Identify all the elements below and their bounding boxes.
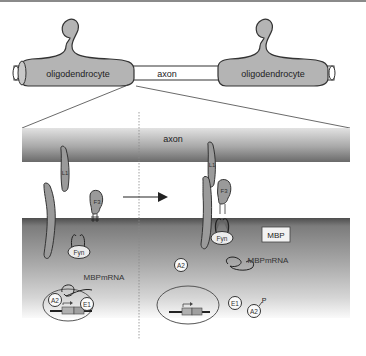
right-mbp-mrna-label: MBPmRNA: [248, 256, 290, 265]
svg-text:MBP: MBP: [267, 231, 284, 240]
zoom-line-left: [22, 85, 128, 128]
mbp-protein-box: MBP: [262, 227, 290, 242]
diagram-canvas: axon oligodendrocyte oligodendrocyte axo…: [0, 0, 366, 356]
right-free-e1: E1: [229, 297, 242, 310]
right-oligodendrocyte-label: oligodendrocyte: [241, 69, 305, 79]
left-mbp-mrna-label: MBPmRNA: [84, 273, 126, 282]
svg-text:E1: E1: [231, 300, 239, 307]
right-free-a2: A2: [175, 259, 188, 272]
overview-schematic: axon oligodendrocyte oligodendrocyte: [13, 19, 350, 128]
top-border: [0, 0, 366, 2]
left-hnrnp-a2: A2: [49, 294, 62, 307]
svg-text:Fyn: Fyn: [217, 235, 228, 243]
zoom-line-right: [136, 86, 350, 128]
svg-text:A2: A2: [51, 297, 59, 304]
left-fyn-kinase: Fyn: [68, 246, 90, 259]
diagram-frame: axon oligodendrocyte oligodendrocyte axo…: [0, 0, 366, 356]
svg-text:F3: F3: [93, 199, 101, 205]
svg-text:L1: L1: [62, 170, 69, 176]
detail-panel: axon L1 F3: [22, 112, 350, 340]
svg-text:Fyn: Fyn: [74, 249, 85, 257]
left-oligodendrocyte: oligodendrocyte: [18, 19, 134, 86]
left-hnrnp-e1: E1: [81, 298, 94, 311]
phosphate-mark: P: [262, 297, 267, 304]
svg-text:L1: L1: [209, 162, 216, 168]
right-f3-protein: F3: [218, 180, 231, 214]
right-caspr-protein: [201, 176, 212, 248]
detail-axon-label: axon: [163, 134, 183, 144]
left-f3-protein: F3: [90, 190, 103, 222]
overview-axon-label: axon: [157, 69, 177, 79]
svg-text:A2: A2: [250, 308, 258, 315]
svg-text:A2: A2: [177, 262, 185, 269]
svg-text:E1: E1: [83, 301, 91, 308]
right-oligodendrocyte: oligodendrocyte: [218, 19, 328, 86]
left-oligodendrocyte-label: oligodendrocyte: [46, 69, 110, 79]
transition-arrow: [123, 192, 168, 202]
right-fyn-kinase: Fyn: [211, 232, 233, 245]
detail-axon-band: [22, 128, 350, 162]
svg-text:F3: F3: [220, 188, 228, 194]
